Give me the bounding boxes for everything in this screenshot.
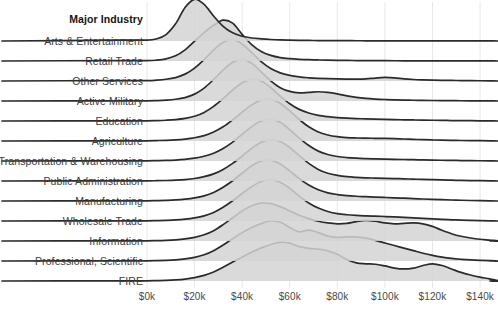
category-label: Retail Trade bbox=[85, 56, 143, 67]
category-label: Arts & Entertainment bbox=[44, 36, 143, 47]
ridgeline-chart: Major Industry Arts & EntertainmentRetai… bbox=[0, 0, 498, 311]
category-label: Manufacturing bbox=[75, 196, 143, 207]
category-label: FIRE bbox=[119, 276, 143, 287]
category-label: Transportation & Warehousing bbox=[0, 156, 143, 167]
category-label: Other Services bbox=[72, 76, 143, 87]
category-label: Professional, Scientific bbox=[35, 256, 143, 267]
category-label: Agriculture bbox=[92, 136, 143, 147]
category-label: Information bbox=[89, 236, 143, 247]
chart-title-label: Major Industry bbox=[69, 14, 143, 25]
category-label-column: Major Industry Arts & EntertainmentRetai… bbox=[0, 0, 143, 311]
category-label: Active Military bbox=[77, 96, 143, 107]
category-label: Wholesale Trade bbox=[63, 216, 143, 227]
category-label: Public Administration bbox=[43, 176, 143, 187]
category-label: Education bbox=[95, 116, 143, 127]
